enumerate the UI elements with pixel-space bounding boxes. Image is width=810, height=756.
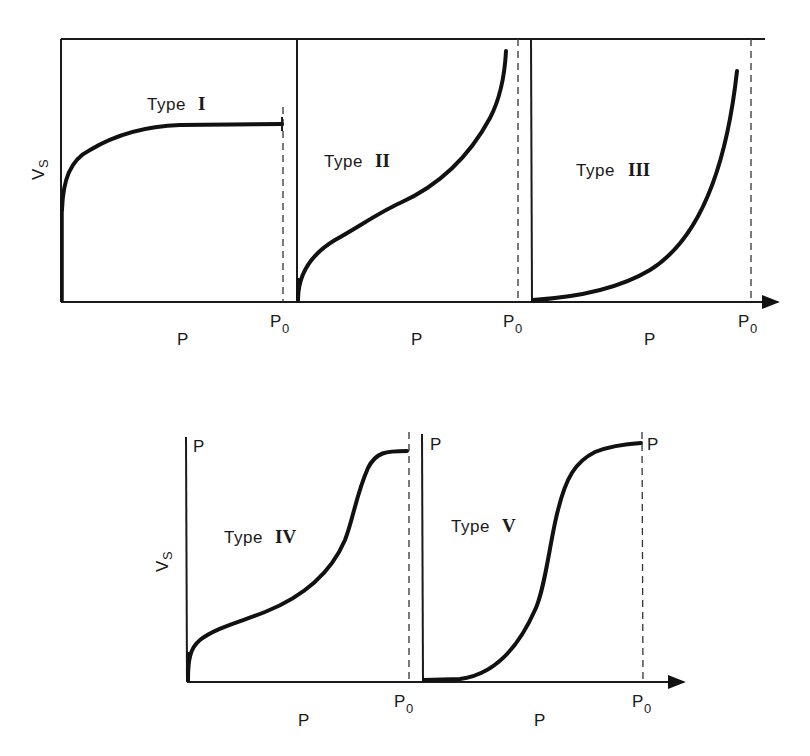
panel-type-1: Type I V S P 0 P xyxy=(29,93,289,349)
top-marker-label: P xyxy=(647,435,658,454)
type-label: Type xyxy=(324,152,363,171)
svg-text:V: V xyxy=(29,168,48,180)
type-numeral: III xyxy=(628,159,650,180)
p0-label: P 0 xyxy=(738,312,757,336)
type-label: Type xyxy=(224,528,263,547)
y-axis-label: V S xyxy=(29,159,51,180)
top-row-frame xyxy=(61,39,778,302)
isotherm-curve-type-3 xyxy=(533,71,737,300)
svg-text:0: 0 xyxy=(750,321,757,336)
p0-dashed-line xyxy=(642,432,643,682)
isotherm-curve-type-2 xyxy=(298,51,506,300)
type-label: Type xyxy=(451,517,490,536)
p0-label: P 0 xyxy=(503,312,522,336)
x-axis-label: P xyxy=(534,711,545,730)
isotherm-curve-type-1 xyxy=(62,124,282,210)
type-numeral: I xyxy=(198,93,205,114)
panel-type-4: P Type IV V S P 0 P xyxy=(153,432,413,730)
svg-text:S: S xyxy=(36,159,51,168)
svg-text:0: 0 xyxy=(406,701,413,716)
svg-text:0: 0 xyxy=(282,321,289,336)
p0-label: P 0 xyxy=(270,312,289,336)
top-marker-label: P xyxy=(430,435,441,454)
x-axis-label: P xyxy=(644,330,655,349)
panel-type-5: P P Type V P 0 P xyxy=(422,432,658,730)
type-numeral: V xyxy=(502,515,516,536)
p0-label: P 0 xyxy=(394,692,413,716)
svg-text:S: S xyxy=(160,551,175,560)
x-axis-label: P xyxy=(411,330,422,349)
svg-text:P: P xyxy=(632,692,643,711)
svg-text:0: 0 xyxy=(644,701,651,716)
type-label: Type xyxy=(576,161,615,180)
isotherm-curve-type-4 xyxy=(188,451,407,680)
type-label: Type xyxy=(147,95,186,114)
x-axis-label: P xyxy=(177,330,188,349)
svg-text:V: V xyxy=(153,560,172,572)
isotherm-curve-type-5 xyxy=(424,443,641,680)
type-numeral: II xyxy=(375,150,390,171)
y-axis-type-5 xyxy=(422,434,423,682)
svg-text:P: P xyxy=(394,692,405,711)
type-numeral: IV xyxy=(275,526,296,547)
x-axis-label: P xyxy=(298,711,309,730)
svg-text:P: P xyxy=(270,312,281,331)
y-axis-label: V S xyxy=(153,551,175,572)
svg-text:P: P xyxy=(738,312,749,331)
svg-text:P: P xyxy=(503,312,514,331)
svg-text:0: 0 xyxy=(515,321,522,336)
isotherm-figure: Type I V S P 0 P Type II P 0 P Type III xyxy=(0,0,810,756)
y-axis-type-4 xyxy=(186,437,187,682)
p0-label: P 0 xyxy=(632,692,651,716)
top-marker-label: P xyxy=(193,437,204,456)
y-axis-type-3 xyxy=(531,39,532,302)
